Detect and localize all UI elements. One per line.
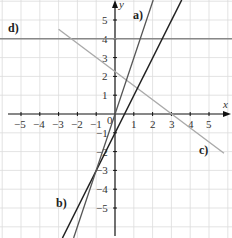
label-a: a) <box>133 8 143 22</box>
svg-text:2: 2 <box>102 70 108 82</box>
svg-text:5: 5 <box>102 14 108 26</box>
svg-text:−5: −5 <box>96 202 108 214</box>
svg-text:1: 1 <box>131 118 137 130</box>
x-axis-label: x <box>222 98 228 110</box>
svg-text:3: 3 <box>169 118 175 130</box>
label-b: b) <box>56 196 67 210</box>
svg-text:2: 2 <box>150 118 156 130</box>
svg-text:−4: −4 <box>96 183 108 195</box>
y-axis <box>112 0 118 236</box>
svg-text:−5: −5 <box>14 118 26 130</box>
y-axis-label: y <box>118 0 124 10</box>
svg-text:−1: −1 <box>96 127 108 139</box>
svg-text:1: 1 <box>102 89 108 101</box>
svg-text:−2: −2 <box>71 118 83 130</box>
coordinate-plane: −5 −4 −3 −2 −1 1 2 3 4 5 0 5 4 3 2 1 −1 … <box>0 0 232 238</box>
x-axis <box>8 111 231 117</box>
line-c <box>59 29 224 153</box>
svg-text:−3: −3 <box>52 118 64 130</box>
svg-text:−4: −4 <box>33 118 45 130</box>
svg-text:5: 5 <box>206 118 212 130</box>
line-a <box>74 0 154 238</box>
label-d: d) <box>8 21 19 35</box>
label-c: c) <box>199 143 208 157</box>
